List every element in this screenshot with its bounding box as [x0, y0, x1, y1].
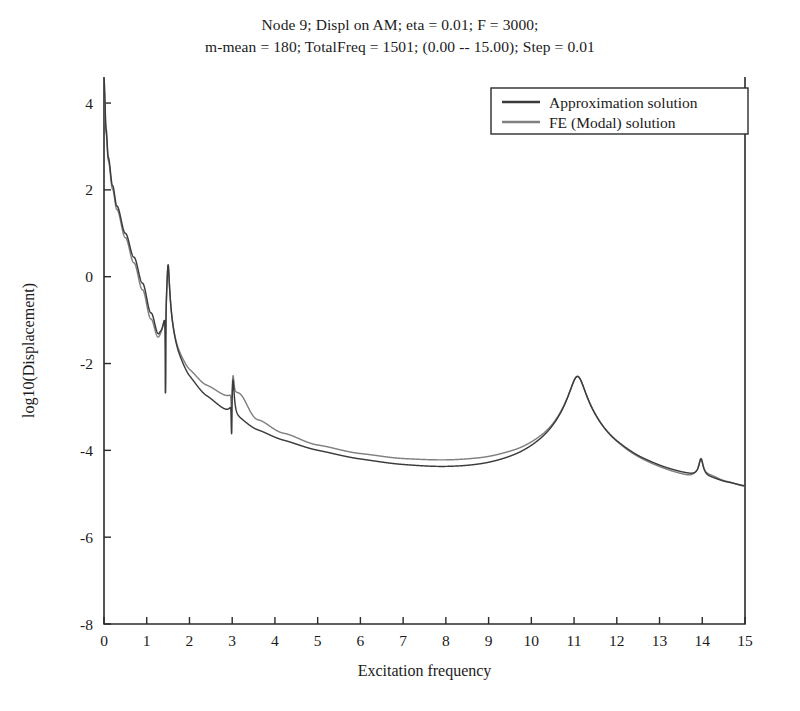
x-tick-label: 4	[271, 632, 279, 649]
x-tick-label: 1	[143, 632, 151, 649]
legend-label: Approximation solution	[549, 94, 698, 111]
figure-container: Node 9; Displ on AM; eta = 0.01; F = 300…	[0, 0, 800, 711]
y-tick-label: -6	[80, 529, 93, 546]
x-tick-label: 8	[442, 632, 450, 649]
x-tick-label: 7	[399, 632, 407, 649]
y-tick-label: 2	[85, 181, 93, 198]
y-tick-label: -4	[80, 442, 93, 459]
x-tick-label: 0	[100, 632, 108, 649]
y-tick-label: -8	[80, 616, 93, 633]
y-tick-label: -2	[80, 355, 93, 372]
x-tick-label: 9	[485, 632, 493, 649]
series-group	[104, 79, 745, 486]
x-tick-label: 2	[186, 632, 194, 649]
x-tick-label: 13	[652, 632, 668, 649]
x-tick-label: 15	[737, 632, 753, 649]
x-tick-label: 11	[567, 632, 582, 649]
x-tick-label: 10	[524, 632, 540, 649]
chart-plot: 0123456789101112131415-8-6-4-2024Excitat…	[0, 0, 800, 711]
axis-frame	[104, 77, 745, 624]
x-tick-label: 3	[228, 632, 236, 649]
series-line	[104, 87, 745, 487]
series-line	[104, 79, 745, 486]
legend-label: FE (Modal) solution	[549, 114, 676, 132]
y-tick-label: 4	[85, 95, 93, 112]
y-axis-title: log10(Displacement)	[20, 283, 38, 418]
x-tick-label: 6	[357, 632, 365, 649]
x-tick-label: 5	[314, 632, 322, 649]
x-tick-label: 12	[609, 632, 625, 649]
y-tick-label: 0	[85, 268, 93, 285]
x-tick-label: 14	[695, 632, 711, 649]
x-axis-title: Excitation frequency	[358, 662, 492, 680]
